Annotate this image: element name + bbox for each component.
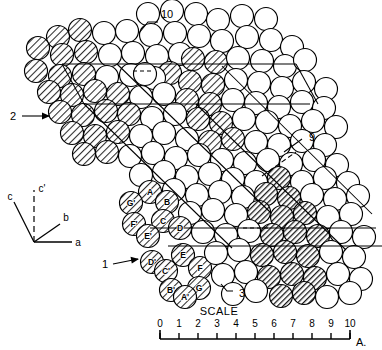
atom-circle (84, 80, 107, 103)
atom-circle (69, 19, 92, 42)
atom-circle (293, 282, 316, 305)
atom-circle (205, 242, 228, 265)
atom-circle (207, 9, 230, 32)
atom-label-e-prime: E' (144, 231, 152, 241)
atom-circle (185, 3, 208, 26)
atom-circle (95, 100, 118, 123)
atom-circle (205, 51, 228, 74)
atom-circle (99, 44, 122, 67)
atom-circle (293, 71, 316, 94)
scale-unit-label: A. (356, 336, 366, 348)
scale-tick-label: 9 (328, 318, 334, 329)
atom-circle (116, 20, 139, 43)
atom-circle (248, 72, 271, 95)
atom-label-a-prime: A' (181, 292, 189, 302)
atom-circle (233, 108, 256, 131)
atom-circle (96, 141, 119, 164)
atom-circle (75, 41, 98, 64)
atom-circle (256, 111, 279, 134)
atom-circle (61, 122, 84, 145)
atom-circle (38, 81, 61, 104)
atom-circle (153, 122, 176, 145)
scale-tick-label: 7 (290, 318, 296, 329)
atom-circle (25, 60, 48, 83)
atom-circle (353, 226, 376, 249)
atom-label-f: F (197, 263, 202, 273)
atom-circle (297, 245, 320, 268)
atom-label-f-prime: F' (130, 219, 137, 229)
scale-tick-label: 3 (214, 318, 220, 329)
scale-tick-label: 8 (309, 318, 315, 329)
atom-label-g: G (196, 283, 203, 293)
axis-label-b: b (63, 212, 69, 223)
atom-circle (192, 221, 215, 244)
atom-label-d-prime: D' (148, 257, 156, 267)
scale-tick-label: 4 (233, 318, 239, 329)
atom-circle (51, 44, 74, 67)
callout-label-10: 10 (161, 8, 173, 20)
atom-label-b: B (164, 197, 170, 207)
atom-circle (164, 22, 187, 45)
atom-circle (228, 239, 251, 262)
atom-circle (339, 282, 362, 305)
scale-title: SCALE (200, 305, 239, 317)
structure-svg: 10 2 9 1 3 AG'BF'CE'DD'EC'FB'GA' c c' b … (0, 0, 382, 350)
atom-circle (140, 24, 163, 47)
scale-tick-label: 0 (157, 318, 163, 329)
atom-circle (284, 221, 307, 244)
callout-label-9: 9 (309, 131, 315, 143)
atom-circle (73, 143, 96, 166)
atom-label-g-prime: G' (127, 198, 136, 208)
axis-label-a: a (75, 237, 81, 248)
atom-circle (330, 221, 353, 244)
atom-label-e: E (180, 250, 186, 260)
atom-circle (188, 25, 211, 48)
atom-circle (49, 101, 72, 124)
atom-circle (255, 8, 278, 31)
atom-circle (231, 5, 254, 28)
atom-label-c: C (160, 216, 166, 226)
axis-label-c-prime: c' (39, 183, 46, 194)
atom-circle (251, 50, 274, 73)
axis-label-c: c (8, 191, 13, 202)
atom-circle (294, 49, 317, 72)
atom-circle (316, 286, 339, 309)
atom-label-d: D (177, 223, 183, 233)
atom-circle (274, 241, 297, 264)
atom-label-a: A (147, 187, 153, 197)
callout-label-1: 1 (102, 258, 108, 270)
atom-circle (93, 22, 116, 45)
scale-tick-label: 2 (195, 318, 201, 329)
atom-circle (187, 108, 210, 131)
atom-circle (182, 48, 205, 71)
atom-circle (270, 285, 293, 308)
callout-label-3: 3 (239, 287, 245, 299)
atom-circle (107, 121, 130, 144)
scale-tick-label: 1 (176, 318, 182, 329)
atom-label-b-prime: B' (167, 285, 175, 295)
crystal-structure-figure: 10 2 9 1 3 AG'BF'CE'DD'EC'FB'GA' c c' b … (0, 0, 382, 350)
atom-circle (227, 47, 250, 70)
atom-circle (274, 55, 297, 78)
scale-tick-label: 6 (271, 318, 277, 329)
atom-circle (245, 280, 268, 303)
atom-circle (122, 42, 145, 65)
atom-circle (260, 29, 283, 52)
atom-circle (27, 37, 50, 60)
atom-circle (302, 110, 325, 133)
atom-circle (134, 63, 157, 86)
scale-tick-label: 5 (252, 318, 258, 329)
atom-circle (236, 26, 259, 49)
atom-circle (202, 199, 225, 222)
scale-tick-label: 10 (344, 318, 356, 329)
atom-label-c-prime: C' (162, 266, 170, 276)
callout-label-2: 2 (10, 110, 16, 122)
atom-circle (222, 128, 245, 151)
